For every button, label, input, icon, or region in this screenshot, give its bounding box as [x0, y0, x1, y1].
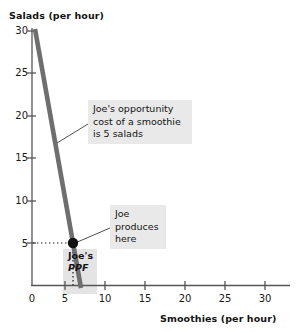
- leader-line-opportunity-cost: [57, 124, 88, 143]
- annotation-opportunity-cost: Joe's opportunity cost of a smoothie is …: [88, 100, 192, 144]
- ppf-chart-figure: Salads (per hour) Smoothies (per hour) 3…: [0, 0, 296, 332]
- ppf-curve-label: Joe's PPF: [68, 250, 93, 274]
- ppf-label-line-1: Joe's: [68, 250, 93, 262]
- annotation-produces-here: Joe produces here: [110, 205, 166, 249]
- production-point-marker: [68, 238, 78, 248]
- leader-line-produces-here: [75, 228, 110, 243]
- ppf-label-line-2: PPF: [68, 262, 93, 274]
- plot-canvas: [0, 0, 296, 332]
